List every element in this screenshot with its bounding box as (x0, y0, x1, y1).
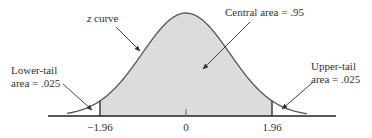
lower-tail-arrow (63, 84, 92, 110)
central-area-shading (100, 13, 272, 116)
curve-word: curve (91, 12, 118, 24)
tick-label-zero: 0 (183, 121, 189, 134)
upper-tail-arrow (282, 83, 312, 109)
central-area-label: Central area = .95 (225, 6, 304, 19)
lower-tail-label: Lower-tail area = .025 (11, 64, 60, 90)
z-curve-label: z curve (87, 12, 118, 25)
upper-tail-label: Upper-tail area = .025 (311, 60, 360, 86)
upper-tail-line1: Upper-tail (311, 60, 360, 73)
lower-tail-line1: Lower-tail (11, 64, 60, 77)
tick-label-upper: 1.96 (262, 121, 281, 134)
upper-tail-line2: area = .025 (311, 73, 360, 86)
tick-label-lower: −1.96 (87, 121, 112, 134)
z-curve-arrow (116, 27, 140, 51)
lower-tail-line2: area = .025 (11, 77, 60, 90)
